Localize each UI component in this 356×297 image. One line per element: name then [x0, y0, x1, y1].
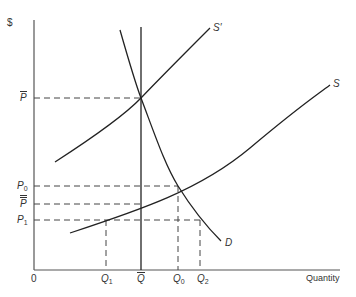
x-axis-label: Quantity	[306, 274, 340, 283]
tick-q0: Q0	[173, 274, 185, 285]
tick-q1: Q1	[101, 274, 113, 285]
tick-p0: P0	[17, 181, 28, 192]
dashed-guides	[34, 98, 200, 270]
tick-q-bar: Q	[137, 274, 145, 284]
d-label: D	[225, 238, 232, 248]
s-label: S	[333, 79, 340, 89]
d-curve	[120, 30, 221, 241]
y-axis-label: $	[7, 18, 13, 28]
origin-label: 0	[31, 274, 37, 284]
supply-demand-chart: $ 0 Quantity P P0 P P1 Q1 Q Q0 Q2 S′ S D	[0, 0, 356, 297]
s-prime-curve	[55, 28, 210, 162]
tick-p-dbar: P	[20, 199, 27, 209]
tick-p1: P1	[17, 215, 28, 226]
tick-q2: Q2	[197, 274, 209, 285]
chart-canvas	[0, 0, 356, 297]
tick-p-bar: P	[20, 93, 27, 103]
s-curve	[70, 85, 330, 233]
s-prime-label: S′	[213, 23, 222, 33]
